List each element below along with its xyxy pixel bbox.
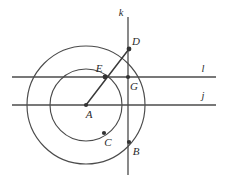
geometry-canvas: A B C D E G k l j — [0, 0, 228, 184]
point-label-d: D — [131, 35, 140, 47]
line-label-l: l — [202, 63, 205, 74]
point-label-c: C — [104, 136, 112, 148]
point-e-dot — [103, 75, 108, 80]
line-label-j: j — [200, 90, 205, 101]
point-b-dot — [127, 140, 131, 144]
point-a-dot — [84, 103, 88, 107]
point-label-e: E — [95, 62, 103, 74]
line-label-k: k — [119, 7, 124, 18]
point-d-dot — [127, 47, 132, 52]
point-label-b: B — [133, 145, 140, 157]
point-label-a: A — [85, 108, 93, 120]
point-g-dot — [126, 75, 130, 79]
point-c-dot — [102, 131, 106, 135]
geometry-diagram: A B C D E G k l j — [0, 0, 228, 184]
point-label-g: G — [130, 80, 138, 92]
